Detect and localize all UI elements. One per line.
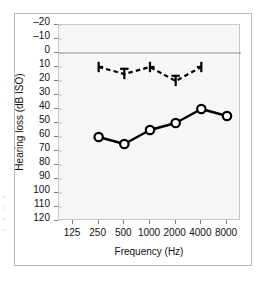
bone-conduction-marker xyxy=(171,76,179,86)
scan-artifact xyxy=(2,207,5,209)
air-conduction-marker xyxy=(94,133,102,141)
x-tick-label: 8000 xyxy=(204,227,248,238)
air-conduction-marker xyxy=(171,119,179,127)
air-conduction-line xyxy=(99,109,227,144)
scan-artifact xyxy=(2,218,5,220)
bone-conduction-marker xyxy=(150,62,155,72)
x-axis-title: Frequency (Hz) xyxy=(58,246,240,257)
audiogram-figure: Hearing loss (dB ISO) –20–10010203040506… xyxy=(0,0,267,281)
bone-conduction-marker xyxy=(99,62,104,72)
air-conduction-marker xyxy=(120,140,128,148)
plot-area xyxy=(58,24,240,220)
y-axis-title: Hearing loss (dB ISO) xyxy=(14,24,28,220)
air-conduction-marker xyxy=(146,126,154,134)
air-conduction-marker xyxy=(197,105,205,113)
bone-conduction-marker xyxy=(197,62,202,72)
plot-canvas xyxy=(59,25,241,221)
air-conduction-marker xyxy=(223,112,231,120)
scan-artifact xyxy=(2,196,5,198)
scan-artifact xyxy=(2,229,5,231)
